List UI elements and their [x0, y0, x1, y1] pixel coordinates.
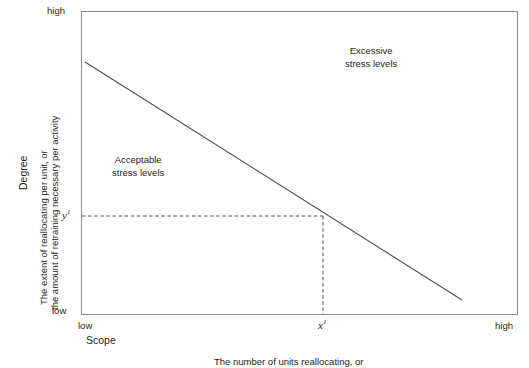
y-axis-title: Degree: [17, 156, 29, 190]
x-axis-tick-low: low: [78, 320, 92, 331]
x-axis-caption: The number of units reallocating, or: [214, 356, 363, 368]
y-axis-tick-y1-superscript: 1: [67, 208, 71, 216]
y-axis-caption-line1: The extent of reallocating per unit, or: [38, 150, 49, 305]
annotation-excessive-line2: stress levels: [345, 57, 397, 70]
y-axis-tick-high: high: [47, 5, 65, 16]
x-axis-tick-x1: x1: [318, 319, 326, 331]
annotation-acceptable-stress: Acceptable stress levels: [112, 153, 164, 179]
annotation-acceptable-line1: Acceptable: [112, 153, 164, 166]
x-axis-title: Scope: [86, 334, 116, 347]
y-axis-caption-line2: the amount of retraining necessary per a…: [49, 116, 60, 310]
x-axis-tick-x1-superscript: 1: [323, 318, 327, 326]
annotation-excessive-line1: Excessive: [345, 44, 397, 57]
y-axis-tick-y1: y1: [62, 209, 70, 221]
annotation-excessive-stress: Excessive stress levels: [345, 44, 397, 70]
x-axis-tick-high: high: [495, 320, 513, 331]
annotation-acceptable-line2: stress levels: [112, 166, 164, 179]
